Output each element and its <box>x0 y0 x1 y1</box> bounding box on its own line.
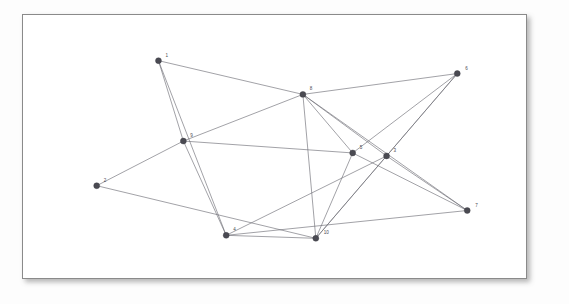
graph-node[interactable] <box>223 232 229 238</box>
graph-node-label: 2 <box>104 178 107 183</box>
graph-node-label: 7 <box>475 203 478 208</box>
graph-edge <box>183 141 352 153</box>
graph-edge <box>226 156 386 235</box>
graph-node[interactable] <box>350 150 356 156</box>
graph-node-label: 1 <box>165 53 168 58</box>
graph-edge <box>353 153 468 211</box>
edge-layer <box>97 61 468 239</box>
graph-edge <box>303 94 353 153</box>
graph-node[interactable] <box>94 183 100 189</box>
graph-figure-frame: 16895327410 <box>22 14 527 279</box>
node-label-layer: 16895327410 <box>104 53 479 236</box>
graph-node[interactable] <box>155 58 161 64</box>
node-layer <box>94 58 471 242</box>
graph-canvas: 16895327410 <box>23 15 526 278</box>
graph-node-label: 6 <box>465 66 468 71</box>
graph-edge <box>303 94 316 238</box>
graph-node[interactable] <box>464 208 470 214</box>
graph-edge <box>183 141 226 235</box>
graph-edge <box>158 61 302 95</box>
graph-edge <box>97 141 184 186</box>
graph-edge <box>387 156 468 211</box>
graph-node[interactable] <box>180 138 186 144</box>
graph-node-label: 10 <box>324 230 330 235</box>
graph-edge <box>158 61 226 236</box>
graph-edge <box>97 186 316 239</box>
graph-node[interactable] <box>300 91 306 97</box>
graph-node[interactable] <box>313 235 319 241</box>
graph-edge <box>226 211 467 236</box>
graph-node[interactable] <box>384 153 390 159</box>
graph-node-label: 3 <box>394 148 397 153</box>
graph-node-label: 8 <box>310 86 313 91</box>
graph-edge <box>183 94 303 141</box>
graph-node-label: 4 <box>233 227 236 232</box>
graph-edge <box>158 61 183 141</box>
graph-edge <box>303 94 467 210</box>
graph-edge <box>316 156 387 238</box>
graph-node[interactable] <box>454 71 460 77</box>
graph-edge <box>226 235 316 238</box>
figure-page: 16895327410 <box>0 0 569 304</box>
